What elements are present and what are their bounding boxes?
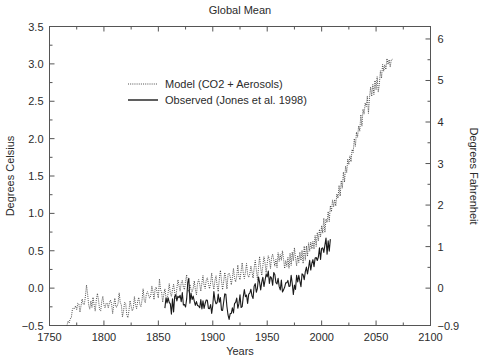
y-tick-label-8: 3.5 <box>28 21 43 33</box>
y-tick-label-0: −0.5 <box>22 320 44 332</box>
x-tick-label-1950: 1950 <box>255 331 279 343</box>
y-tick-label-3: 1.0 <box>28 207 43 219</box>
y2-tick-label-7: 6 <box>438 33 444 45</box>
y-tick-label-6: 2.5 <box>28 95 43 107</box>
chart-legend: Model (CO2 + Aerosols) Observed (Jones e… <box>128 78 307 106</box>
y2-axis-title: Degrees Fahrenheit <box>468 127 480 224</box>
x-tick-label-1750: 1750 <box>37 331 61 343</box>
y2-tick-label-0: −0.9 <box>438 320 460 332</box>
x-axis-tick-labels: 17501800185019001950200020502100 <box>37 331 442 343</box>
y-tick-label-2: 0.5 <box>28 245 43 257</box>
legend-label-observed: Observed (Jones et al. 1998) <box>165 94 307 106</box>
x-tick-label-1850: 1850 <box>146 331 170 343</box>
global-mean-temperature-chart: Global Mean 1750180018501900195020002050… <box>0 0 484 363</box>
y2-axis-tick-labels: −0.90123456 <box>438 33 460 332</box>
y2-tick-label-1: 0 <box>438 282 444 294</box>
y-axis-title: Degrees Celsius <box>4 135 16 216</box>
x-tick-label-1900: 1900 <box>201 331 225 343</box>
y2-tick-label-6: 5 <box>438 74 444 86</box>
y-axis-ticks <box>50 27 55 326</box>
chart-title: Global Mean <box>209 4 271 16</box>
y-tick-label-7: 3.0 <box>28 58 43 70</box>
legend-label-model: Model (CO2 + Aerosols) <box>165 78 283 90</box>
plot-frame <box>50 27 431 326</box>
x-axis-ticks <box>50 27 431 326</box>
y2-tick-label-5: 4 <box>438 116 444 128</box>
y-tick-label-1: 0.0 <box>28 282 43 294</box>
x-tick-label-1800: 1800 <box>92 331 116 343</box>
y-tick-label-5: 2.0 <box>28 133 43 145</box>
x-tick-label-2050: 2050 <box>364 331 388 343</box>
x-tick-label-2000: 2000 <box>309 331 333 343</box>
y-axis-tick-labels: −0.50.00.51.01.52.02.53.03.5 <box>22 21 44 332</box>
x-tick-label-2100: 2100 <box>418 331 442 343</box>
y2-tick-label-3: 2 <box>438 199 444 211</box>
x-axis-title: Years <box>226 345 254 357</box>
y2-tick-label-2: 1 <box>438 241 444 253</box>
y2-tick-label-4: 3 <box>438 158 444 170</box>
chart-container: Global Mean 1750180018501900195020002050… <box>0 0 484 363</box>
series-line-observed <box>165 238 330 319</box>
y-tick-label-4: 1.5 <box>28 170 43 182</box>
y2-axis-ticks <box>426 39 431 326</box>
